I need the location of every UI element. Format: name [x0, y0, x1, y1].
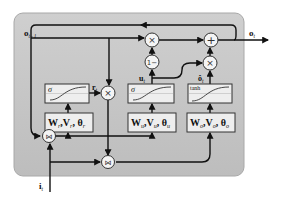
- concat-icon: ⋈: [105, 159, 112, 167]
- concat-icon: ⋈: [46, 133, 53, 141]
- one-minus-icon: 1−: [147, 59, 157, 67]
- update-params-box: Wu,Vu, θu: [128, 113, 176, 132]
- concat-op-1: ⋈: [43, 130, 56, 143]
- output-label: ot: [249, 28, 256, 39]
- add-op: +: [204, 33, 218, 47]
- svg-text:Wo,Vo, θo: Wo,Vo, θo: [190, 117, 229, 129]
- candidate-params-box: Wo,Vo, θo: [187, 113, 235, 132]
- plus-icon: +: [206, 34, 215, 47]
- update-multiply-op: ×: [145, 33, 159, 47]
- multiply-icon: ×: [148, 35, 156, 45]
- reset-params-box: Wr,Vr, θr: [45, 113, 93, 132]
- concat-op-2: ⋈: [102, 156, 115, 169]
- candidate-activation-box: tanh: [188, 84, 232, 103]
- gated-recurrent-cell-diagram: σ σ tanh Wr,Vr, θr Wu,Vu, θu Wo,Vo, θo ×: [0, 0, 281, 200]
- candidate-multiply-op: ×: [203, 56, 217, 70]
- svg-text:Wu,Vu, θu: Wu,Vu, θu: [131, 117, 170, 129]
- update-activation-box: σ: [128, 84, 174, 103]
- multiply-icon: ×: [206, 58, 214, 68]
- one-minus-op: 1−: [145, 55, 159, 69]
- multiply-icon: ×: [104, 88, 112, 98]
- reset-multiply-op: ×: [101, 86, 115, 100]
- reset-activation-box: σ: [45, 84, 89, 103]
- svg-text:Wr,Vr, θr: Wr,Vr, θr: [48, 117, 86, 129]
- input-label: it: [39, 181, 44, 192]
- candidate-activation-label: tanh: [190, 85, 200, 91]
